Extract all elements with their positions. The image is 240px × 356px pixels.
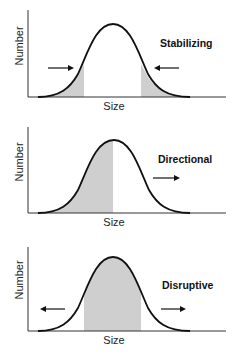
shaded-center	[84, 257, 141, 331]
panel-disruptive: Number Size Disruptive	[0, 234, 240, 352]
panel-title: Stabilizing	[160, 37, 213, 49]
y-axis-label: Number	[13, 132, 25, 192]
distribution-curve	[38, 140, 190, 213]
y-axis-label: Number	[13, 250, 25, 310]
panel-stabilizing: Number Size Stabilizing	[0, 0, 240, 118]
distribution-curve	[38, 24, 190, 97]
shaded-left-half	[38, 140, 113, 213]
arrow-left-icon	[154, 65, 179, 71]
arrow-right-icon	[48, 65, 74, 71]
arrow-right-icon	[161, 306, 186, 312]
panel-title: Disruptive	[162, 279, 213, 291]
panel-title: Directional	[158, 153, 212, 165]
y-axis-label: Number	[13, 16, 25, 76]
arrow-right-icon	[153, 175, 180, 181]
x-axis-label: Size	[94, 334, 134, 346]
x-axis-label: Size	[94, 100, 134, 112]
panel-directional: Number Size Directional	[0, 116, 240, 234]
x-axis-label: Size	[94, 216, 134, 228]
arrow-left-icon	[40, 306, 65, 312]
